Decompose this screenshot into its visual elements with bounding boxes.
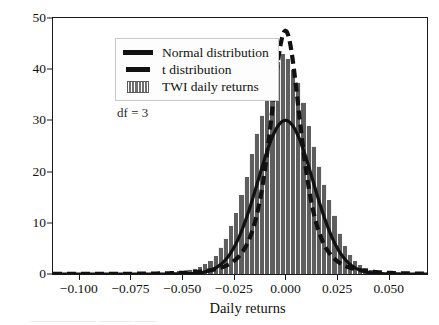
x-axis-tick-mark (130, 275, 131, 280)
histogram-bar (270, 72, 275, 274)
y-axis-tick-mark (47, 18, 52, 19)
histogram-bar (285, 59, 290, 274)
x-axis-tick-mark (285, 275, 286, 280)
legend-label-twi: TWI daily returns (162, 80, 259, 94)
y-axis-tick-label: 0 (6, 266, 46, 282)
x-axis-tick-mark (389, 275, 390, 280)
histogram-bar (316, 166, 321, 274)
x-axis-tick-mark (337, 275, 338, 280)
y-axis-tick-mark (47, 222, 52, 223)
y-axis-tick-label: 40 (6, 61, 46, 77)
chart-legend: Normal distribution t distribution TWI d… (115, 38, 279, 101)
legend-key-hatched-patch-icon (123, 80, 153, 93)
histogram-bar (280, 54, 285, 274)
legend-item-normal: Normal distribution (123, 44, 269, 61)
y-axis-tick-label: 50 (6, 10, 46, 26)
x-axis-tick-label: −0.050 (163, 281, 201, 297)
histogram-bar (249, 154, 254, 274)
y-axis-tick-mark (47, 69, 52, 70)
histogram-bar (291, 69, 296, 274)
plot-area: df = 3 Normal distribution t distributio… (52, 17, 428, 275)
x-axis-tick-mark (79, 275, 80, 280)
x-axis-tick-label: 0.050 (374, 281, 404, 297)
x-axis-tick-mark (182, 275, 183, 280)
x-axis-tick-mark (234, 275, 235, 280)
y-axis-tick-mark (47, 274, 52, 275)
y-axis-tick-label: 30 (6, 112, 46, 128)
legend-label-t: t distribution (162, 63, 231, 77)
y-axis-tick-mark (47, 120, 52, 121)
y-axis-tick-label: 20 (6, 164, 46, 180)
histogram-bar (265, 90, 270, 274)
figure-caption-truncated: —————— ——— —— (30, 314, 270, 325)
legend-key-solid-line-icon (123, 46, 153, 59)
legend-item-t: t distribution (123, 61, 269, 78)
y-axis-tick-labels: 01020304050 (0, 17, 46, 275)
figure-canvas: 01020304050 df = 3 Normal distribution (0, 0, 439, 325)
x-axis-tick-labels: −0.100−0.075−0.050−0.0250.0000.0250.050 (0, 281, 439, 301)
x-axis-tick-label: −0.025 (215, 281, 253, 297)
y-axis-tick-mark (47, 171, 52, 172)
x-axis-tick-label: 0.025 (322, 281, 352, 297)
histogram-bar (322, 184, 327, 274)
x-axis-tick-label: 0.000 (270, 281, 300, 297)
y-axis-tick-label: 10 (6, 215, 46, 231)
x-axis-tick-label: −0.075 (111, 281, 149, 297)
x-axis-tick-label: −0.100 (60, 281, 98, 297)
legend-label-normal: Normal distribution (162, 46, 269, 60)
legend-key-dashed-line-icon (123, 63, 153, 76)
legend-item-twi: TWI daily returns (123, 78, 269, 95)
df-annotation: df = 3 (117, 105, 148, 121)
